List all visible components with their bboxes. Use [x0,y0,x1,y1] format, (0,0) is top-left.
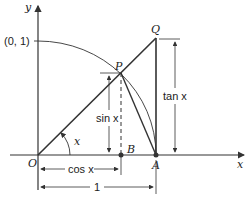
label-p: P [114,60,123,73]
ray-oq [38,38,156,155]
cos-label: cos x [68,163,94,175]
label-b: B [126,143,135,156]
angle-arc [61,133,70,155]
unit-point-label: (0, 1) [4,35,30,47]
label-o: O [28,157,37,170]
label-a: A [151,159,160,172]
point-a [154,153,159,158]
angle-label: x [74,135,81,148]
label-q: Q [151,23,160,36]
one-label: 1 [94,181,100,193]
tan-label: tan x [163,90,187,102]
y-axis-label: y [24,1,32,14]
sin-label: sin x [96,112,119,124]
unit-circle-diagram: y x (0, 1) O P Q B A x sin x tan x cos x… [0,0,249,204]
point-b [119,153,124,158]
x-axis-label: x [237,158,244,171]
